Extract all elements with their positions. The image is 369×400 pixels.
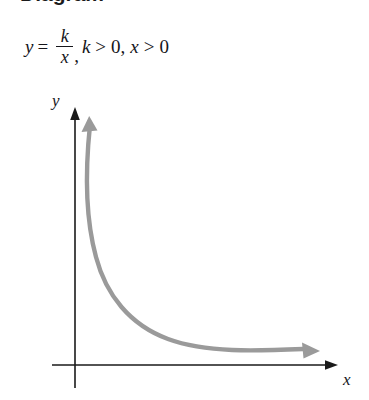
figure-canvas: Diagram y = k x , k > 0 , x > 0 — [0, 0, 369, 400]
curve-arrowhead-right-icon — [302, 343, 320, 359]
x-axis-label: x — [343, 370, 351, 390]
condition-2-variable: x — [130, 37, 138, 56]
equation-fraction: k x — [56, 27, 73, 66]
graph: y x — [0, 85, 369, 400]
fraction-denominator: x — [58, 47, 72, 66]
hyperbola-curve — [87, 125, 303, 350]
equation-lhs: y — [25, 37, 33, 56]
clipped-heading: Diagram — [0, 0, 369, 9]
clipped-heading-text: Diagram — [20, 0, 104, 6]
condition-1-operator: > — [95, 37, 106, 56]
x-axis-arrowhead-icon — [325, 360, 338, 370]
condition-2-operator: > — [144, 37, 155, 56]
condition-1-value: 0 — [111, 37, 121, 56]
equation-comma-1: , — [74, 46, 79, 66]
condition-1-variable: k — [82, 37, 90, 56]
curve-arrowhead-top-icon — [82, 116, 98, 132]
equation: y = k x , k > 0 , x > 0 — [25, 27, 169, 66]
y-axis-label: y — [52, 91, 60, 111]
fraction-numerator: k — [58, 27, 72, 46]
graph-svg — [0, 85, 369, 400]
equation-equals-sign: = — [37, 37, 48, 56]
y-axis-arrowhead-icon — [70, 107, 80, 120]
condition-2-value: 0 — [159, 37, 169, 56]
equation-comma-2: , — [121, 37, 126, 56]
